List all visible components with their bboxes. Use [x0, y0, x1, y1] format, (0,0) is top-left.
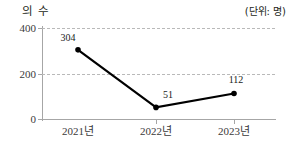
- x-tick-label: 2023년: [218, 122, 250, 138]
- y-tick-label: 400: [20, 22, 37, 34]
- data-point-label: 304: [61, 32, 76, 43]
- plot-area: 0200400 30451112: [42, 28, 275, 119]
- unit-label: (단위: 명): [245, 3, 286, 18]
- x-tick-label: 2022년: [140, 122, 172, 138]
- series-line: [78, 50, 234, 108]
- x-axis-line: [42, 119, 276, 120]
- data-point-label: 112: [229, 74, 244, 85]
- chart-container: 의 수 (단위: 명) 0200400 30451112 2021년2022년2…: [0, 0, 294, 142]
- y-tick-mark: [38, 119, 42, 120]
- y-tick-label: 200: [20, 68, 37, 80]
- data-point-marker: [231, 91, 237, 97]
- y-tick-label: 0: [31, 113, 37, 125]
- data-point-marker: [75, 47, 81, 53]
- data-point-marker: [153, 105, 159, 111]
- data-point-label: 51: [163, 89, 173, 100]
- x-tick-label: 2021년: [62, 122, 94, 138]
- page-title: 의 수: [22, 2, 49, 18]
